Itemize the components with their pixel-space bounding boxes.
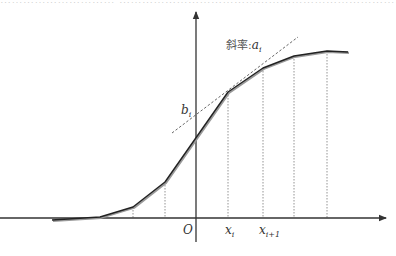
slope-var: a (252, 38, 259, 52)
intercept-var: b (181, 103, 189, 117)
xi-label: xi (225, 224, 234, 239)
xi-sub: i (232, 230, 235, 239)
slope-label: 斜率:ai (226, 39, 261, 54)
xi1-var: x (259, 223, 266, 237)
slope-label-prefix: 斜率: (226, 39, 252, 52)
xi-var: x (225, 223, 232, 237)
intercept-label: bi (181, 104, 191, 119)
xi1-label: xi+1 (259, 224, 280, 239)
origin-label: O (183, 224, 193, 236)
xi1-sub: i+1 (266, 230, 280, 239)
piecewise-linear-diagram (0, 0, 396, 256)
intercept-sub: i (189, 110, 192, 119)
knot-dashed-lines (100, 51, 327, 218)
slope-sub: i (259, 45, 262, 54)
smooth-curve (53, 52, 349, 221)
